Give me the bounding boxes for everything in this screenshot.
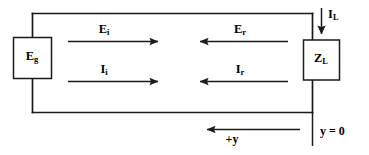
diagram-canvas	[0, 0, 369, 155]
load-current-label: IL	[328, 8, 339, 21]
incident-current-label: Ii	[100, 63, 107, 76]
y-origin-label: y = 0	[320, 125, 345, 137]
load-label: ZL	[314, 52, 328, 65]
incident-voltage-label: Ei	[99, 23, 110, 36]
load-label-subscript: L	[322, 56, 328, 66]
positive-y-label: +y	[226, 133, 239, 145]
generator-label: Eg	[26, 50, 39, 63]
transmission-line-diagram: Eg ZL Ei Ii Er Ir IL +y y = 0	[0, 0, 369, 155]
reflected-voltage-label-subscript: r	[242, 27, 246, 37]
incident-current-label-subscript: i	[105, 67, 107, 77]
positive-y-label-text: +y	[226, 132, 239, 146]
generator-label-subscript: g	[34, 54, 38, 64]
reflected-current-label: Ir	[236, 63, 245, 76]
reflected-current-label-subscript: r	[241, 67, 245, 77]
circuit-loop-wires	[33, 14, 313, 113]
incident-voltage-label-subscript: i	[107, 27, 109, 37]
load-current-label-subscript: L	[333, 12, 339, 22]
reflected-voltage-label: Er	[234, 23, 246, 36]
